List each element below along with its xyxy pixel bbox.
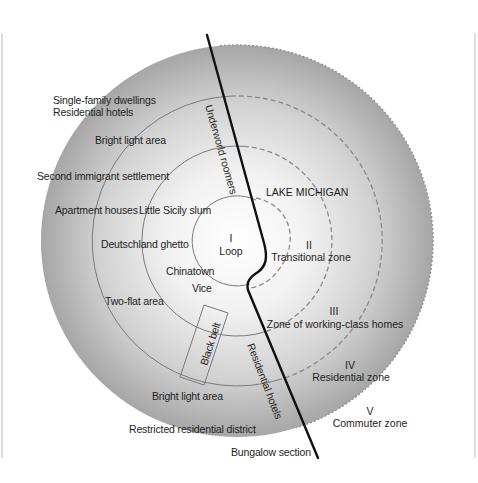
bungalow-section-label: Bungalow section [231, 446, 311, 458]
vice-label: Vice [192, 282, 212, 294]
lake-michigan-label: LAKE MICHIGAN [266, 186, 348, 198]
zone-i-numeral: I [230, 232, 233, 244]
little-sicily-slum-label: Little Sicily slum [139, 204, 211, 216]
bright-light-area-top-label: Bright light area [95, 134, 166, 146]
single-family-dwellings-label: Single-family dwellings [53, 94, 156, 106]
zone-iii-numeral: III [330, 305, 339, 317]
zone-iv-name: Residential zone [312, 371, 390, 383]
zone-iii-name: Zone of working-class homes [267, 318, 404, 330]
zone-v-name: Commuter zone [333, 417, 408, 429]
apartment-houses-label: Apartment houses [55, 204, 138, 216]
zone-v-numeral: V [366, 405, 373, 417]
chinatown-label: Chinatown [166, 265, 215, 277]
residential-hotels-top-label: Residential hotels [53, 106, 133, 118]
bright-light-area-bottom-label: Bright light area [152, 390, 223, 402]
zone-ii-name: Transitional zone [271, 251, 351, 263]
zone-iv-numeral: IV [345, 359, 355, 371]
restricted-residential-district-label: Restricted residential district [129, 423, 256, 435]
deutschland-ghetto-label: Deutschland ghetto [101, 238, 189, 250]
zone-ii-numeral: II [306, 239, 312, 251]
second-immigrant-settlement-label: Second immigrant settlement [37, 170, 169, 182]
concentric-zone-diagram: I Loop II Transitional zone III Zone of … [0, 0, 478, 483]
two-flat-area-label: Two-flat area [105, 295, 164, 307]
zone-i-name: Loop [219, 245, 243, 257]
